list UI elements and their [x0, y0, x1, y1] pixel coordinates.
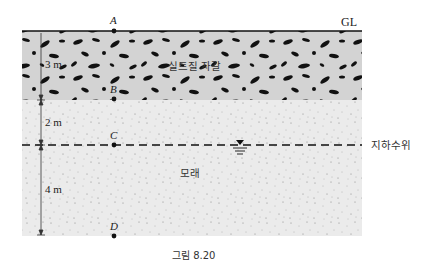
silty-gravel-label: 실트질 자갈 [168, 58, 221, 73]
sand-label: 모래 [180, 165, 200, 180]
ground-line-label: GL [341, 15, 357, 30]
point-d-label: D [110, 220, 118, 232]
gravel-thickness-label: 3 m [45, 58, 62, 70]
point-a-label: A [110, 14, 117, 26]
point-c-label: C [110, 129, 117, 141]
soil-profile-diagram [0, 0, 437, 262]
point-b-marker [112, 97, 117, 102]
point-b-label: B [110, 83, 117, 95]
water-table-label: 지하수위 [371, 137, 411, 152]
lower-sand-thickness-label: 4 m [45, 183, 62, 195]
point-a-marker [112, 29, 117, 34]
point-c-marker [112, 143, 117, 148]
upper-sand-thickness-label: 2 m [45, 116, 62, 128]
point-d-marker [112, 234, 117, 239]
figure-caption: 그림 8.20 [172, 247, 215, 262]
